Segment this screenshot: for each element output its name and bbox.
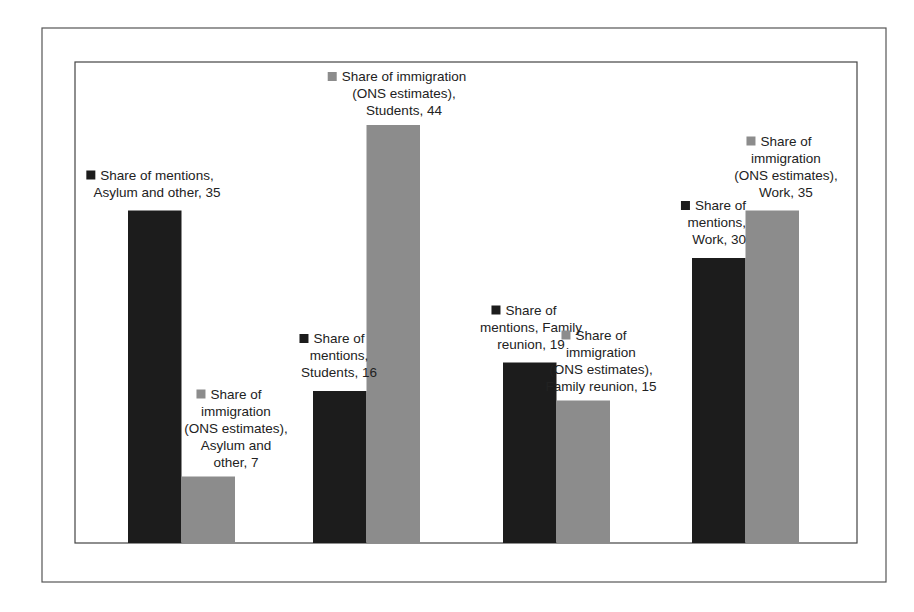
bar-immigration-work [746,211,800,544]
data-label-line: Share of immigration [342,69,467,84]
bar-mentions-asylum-and-other [128,211,182,544]
bar-immigration-students [367,125,421,543]
data-label-line: Share of [313,331,364,346]
data-label-line: Students, 16 [301,365,377,380]
data-label-line: immigration [751,151,821,166]
data-label-line: Share of [695,198,746,213]
data-label-line: reunion, 19 [497,337,565,352]
legend-swatch-icon [86,171,95,180]
data-label-line: immigration [566,345,636,360]
legend-swatch-icon [299,334,308,343]
data-label-line: (ONS estimates), [184,421,288,436]
legend-swatch-icon [196,390,205,399]
data-label-line: (ONS estimates), [549,362,653,377]
data-label-immigration-family-reunion: Share ofimmigration(ONS estimates),Famil… [545,328,656,394]
legend-swatch-icon [328,72,337,81]
data-label-line: immigration [201,404,271,419]
data-label-mentions-students: Share ofmentions,Students, 16 [299,331,376,380]
data-label-line: Work, 30 [692,232,746,247]
bar-chart: Share of mentions,Asylum and other, 35Sh… [0,0,914,612]
data-label-mentions-work: Share ofmentions,Work, 30 [681,198,746,247]
data-label-line: Work, 35 [759,185,813,200]
data-label-line: Share of [760,134,811,149]
data-label-line: Share of [210,387,261,402]
data-label-line: other, 7 [213,455,258,470]
data-label-mentions-asylum-and-other: Share of mentions,Asylum and other, 35 [86,168,220,200]
data-label-immigration-work: Share ofimmigration(ONS estimates),Work,… [734,134,838,200]
data-label-line: Asylum and other, 35 [94,185,221,200]
data-label-line: mentions, [687,215,746,230]
data-label-line: Share of mentions, [100,168,213,183]
data-label-line: (ONS estimates), [352,86,456,101]
data-label-line: Share of [575,328,626,343]
bar-immigration-asylum-and-other [182,477,236,544]
bar-immigration-family-reunion [557,401,611,544]
data-label-line: (ONS estimates), [734,168,838,183]
legend-swatch-icon [561,331,570,340]
data-label-line: mentions, [310,348,369,363]
legend-swatch-icon [746,137,755,146]
bar-mentions-work [692,258,746,543]
legend-swatch-icon [491,306,500,315]
data-label-line: Family reunion, 15 [545,379,656,394]
data-label-line: Share of [505,303,556,318]
legend-swatch-icon [681,201,690,210]
data-label-immigration-asylum-and-other: Share ofimmigration(ONS estimates),Asylu… [184,387,288,470]
data-label-line: Asylum and [201,438,272,453]
data-label-immigration-students: Share of immigration(ONS estimates),Stud… [328,69,467,118]
data-label-line: Students, 44 [366,103,442,118]
bar-mentions-students [313,391,367,543]
